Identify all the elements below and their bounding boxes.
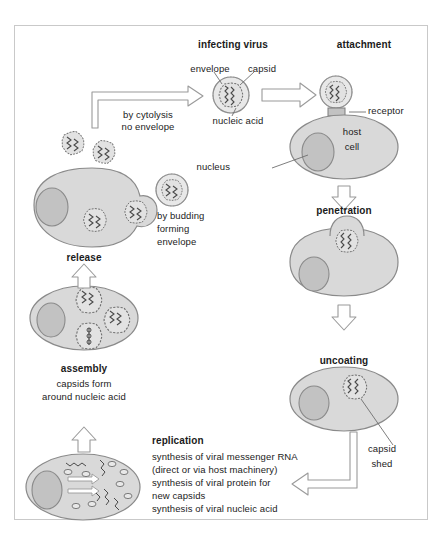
replication-line-1: synthesis of viral messenger RNA [152,451,298,464]
stage-label-attachment: attachment [337,39,391,52]
annotation-budding-line3: envelope [157,236,196,249]
replication-line-2: (direct or via host machinery) [152,464,277,477]
stage-label-uncoating: uncoating [320,355,369,368]
label-nucleic-acid: nucleic acid [213,115,264,128]
diagram-frame [14,25,428,520]
stage-label-assembly: assembly [61,363,107,376]
label-capsid: capsid [248,63,276,76]
stage-label-penetration: penetration [316,205,372,218]
label-cell: cell [345,141,360,154]
label-nucleus: nucleus [197,161,230,174]
label-capsid-shed-line1: capsid [368,443,396,456]
stage-label-infecting-virus: infecting virus [198,39,268,52]
replication-line-5: synthesis of viral nucleic acid [152,503,278,516]
replication-line-4: new capsids [152,490,205,503]
annotation-budding-line2: forming [157,223,189,236]
label-capsid-shed-line2: shed [371,458,392,471]
annotation-cytolysis-line1: by cytolysis [123,109,173,122]
label-host: host [343,126,361,139]
assembly-line-2: around nucleic acid [42,391,126,404]
stage-label-replication: replication [152,435,204,448]
label-envelope: envelope [190,63,229,76]
stage-label-release: release [66,252,101,265]
annotation-cytolysis-line2: no envelope [122,121,175,134]
assembly-line-1: capsids form [56,378,111,391]
replication-line-3: synthesis of viral protein for [152,477,271,490]
label-receptor: receptor [368,105,404,118]
annotation-budding-line1: by budding [157,210,204,223]
